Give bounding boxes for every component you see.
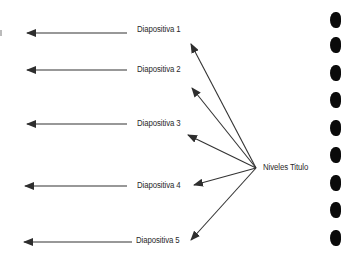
branch-arrow-5 [191, 168, 256, 240]
slide-label-2: Diapositiva 2 [137, 64, 181, 74]
binder-hole [330, 147, 341, 163]
slide-label-3: Diapositiva 3 [137, 118, 181, 128]
binder-hole [330, 92, 341, 108]
binder-hole [330, 12, 341, 28]
edge-fragment [0, 30, 2, 36]
branch-arrow-4 [194, 168, 256, 185]
binder-hole [330, 175, 341, 191]
branch-arrow-3 [188, 135, 256, 168]
binder-hole [330, 120, 341, 136]
slide-label-4: Diapositiva 4 [137, 180, 181, 190]
binder-hole [330, 202, 341, 218]
binder-hole [330, 230, 341, 246]
slide-label-5: Diapositiva 5 [136, 235, 180, 245]
slide-label-1: Diapositiva 1 [137, 24, 181, 34]
branch-arrow-2 [192, 88, 256, 168]
branch-arrow-1 [191, 44, 256, 168]
binder-hole [330, 65, 341, 81]
source-node-label: Niveles Titulo [263, 162, 308, 172]
binder-hole [330, 37, 341, 53]
